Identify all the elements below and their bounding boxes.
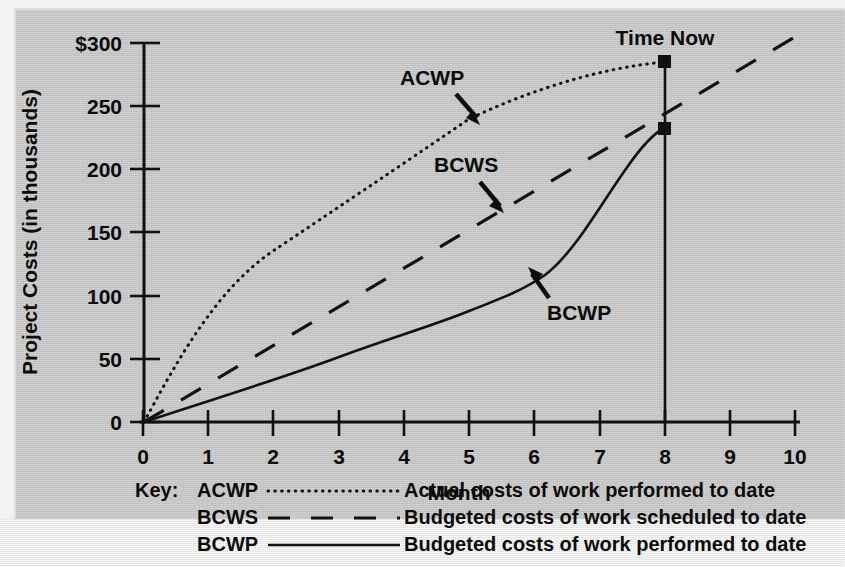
y-tick-label-100: 100 [87,285,122,308]
time-now-reference: Time Now [616,26,715,422]
annotation-bcws-arrow-head [489,198,504,213]
y-axis-title: Project Costs (in thousands) [18,89,41,375]
x-tick-label-8: 8 [659,445,671,468]
legend-abbr-bcws: BCWS [197,506,258,528]
legend-entry-bcwp: BCWP Budgeted costs of work performed to… [197,533,806,555]
x-tick-label-5: 5 [463,445,475,468]
y-tick-label-50: 50 [99,348,122,371]
legend-entry-acwp: ACWP Actual costs of work performed to d… [197,479,775,501]
x-axis [140,410,800,436]
series-bcws [144,38,793,422]
annotation-bcwp-label: BCWP [547,301,611,324]
annotation-bcwp: BCWP [528,267,611,324]
annotation-bcws-label: BCWS [434,153,498,176]
x-tick-label-1: 1 [202,445,214,468]
legend-entry-bcws: BCWS Budgeted costs of work scheduled to… [197,506,806,528]
time-now-label: Time Now [616,26,715,49]
x-tick-label-4: 4 [398,445,410,468]
y-axis-tick-labels: $300 250 200 150 100 50 0 [75,32,122,434]
x-tick-label-9: 9 [724,445,736,468]
y-axis [130,42,160,423]
chart-svg: $300 250 200 150 100 50 0 0 1 2 3 [0,0,845,567]
annotation-bcws: BCWS [434,153,504,213]
legend-description-bcws: Budgeted costs of work scheduled to date [404,506,806,528]
y-tick-label-0: 0 [110,411,122,434]
series-acwp [144,55,671,422]
legend-description-bcwp: Budgeted costs of work performed to date [404,533,806,555]
annotation-bcwp-arrow-head [528,267,543,282]
legend-abbr-bcwp: BCWP [197,533,258,555]
legend-key-label: Key: [135,479,178,501]
x-tick-label-3: 3 [333,445,345,468]
y-tick-label-300: $300 [75,32,122,55]
x-axis-tick-labels: 0 1 2 3 4 5 6 7 8 9 10 [137,445,807,468]
y-tick-label-250: 250 [87,95,122,118]
legend: Key: ACWP Actual costs of work performed… [135,479,806,555]
legend-abbr-acwp: ACWP [197,479,258,501]
y-tick-label-200: 200 [87,158,122,181]
legend-description-acwp: Actual costs of work performed to date [404,479,775,501]
x-tick-label-10: 10 [783,445,806,468]
y-tick-label-150: 150 [87,221,122,244]
x-tick-label-6: 6 [528,445,540,468]
x-tick-label-0: 0 [137,445,149,468]
x-tick-label-2: 2 [267,445,279,468]
x-tick-label-7: 7 [594,445,606,468]
annotation-acwp-arrow-head [466,110,480,125]
annotation-acwp-label: ACWP [400,66,464,89]
chart-figure: $300 250 200 150 100 50 0 0 1 2 3 [0,0,845,567]
annotation-acwp: ACWP [400,66,480,125]
